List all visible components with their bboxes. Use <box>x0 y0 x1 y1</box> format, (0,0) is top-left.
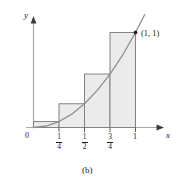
x-tick-label-one-half: 1 2 <box>78 133 92 151</box>
x-tick-label-1: 1 <box>133 132 137 141</box>
riemann-rectangles <box>34 33 136 128</box>
x-axis-arrowhead <box>157 125 165 131</box>
x-tick-one-half-denominator: 2 <box>78 143 92 151</box>
x-tick-label-0: 0 <box>25 131 29 140</box>
x-tick-one-half-numerator: 1 <box>78 133 92 141</box>
point-1-1-marker <box>134 31 138 35</box>
riemann-sum-figure: y x 0 1 4 1 2 3 4 1 (1, 1) (b) <box>0 0 180 187</box>
x-axis-label: x <box>166 130 170 140</box>
x-tick-one-quarter-denominator: 4 <box>52 143 66 151</box>
x-tick-label-one-quarter: 1 4 <box>52 133 66 151</box>
x-axis-ticks <box>59 128 136 133</box>
riemann-rect-4 <box>110 33 136 128</box>
x-tick-one-quarter-numerator: 1 <box>52 133 66 141</box>
riemann-rect-3 <box>85 74 111 127</box>
y-axis-label: y <box>24 10 28 20</box>
x-tick-label-three-quarters: 3 4 <box>103 133 117 151</box>
figure-caption: (b) <box>82 165 93 175</box>
x-tick-three-quarters-numerator: 3 <box>103 133 117 141</box>
x-tick-three-quarters-denominator: 4 <box>103 143 117 151</box>
y-axis-arrowhead <box>31 16 37 24</box>
point-label-1-1: (1, 1) <box>141 28 159 38</box>
